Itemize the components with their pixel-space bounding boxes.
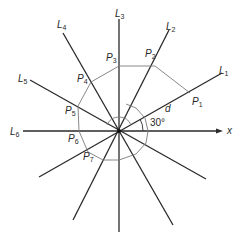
label-l1: L1: [219, 65, 229, 77]
center-point: [117, 129, 121, 133]
label-d: d: [165, 103, 171, 114]
label-p7: P7: [83, 151, 94, 163]
label-angle-30: 30°: [150, 117, 165, 128]
label-p2: P2: [145, 48, 156, 60]
radial-lines-diagram: L1 L2 L3 L4 L5 L6 P1 P2 P3 P4 P5 P6 P7 d…: [0, 0, 244, 239]
label-l6: L6: [10, 126, 20, 138]
x-axis-arrow-icon: [216, 129, 223, 134]
label-l4: L4: [57, 19, 67, 31]
label-l2: L2: [166, 21, 176, 33]
label-p6: P6: [68, 133, 79, 145]
angle-arc-30: [140, 119, 143, 131]
label-p5: P5: [65, 105, 76, 117]
line-l1: [39, 73, 222, 177]
label-l5: L5: [18, 73, 28, 85]
label-p1: P1: [192, 96, 203, 108]
label-l3: L3: [115, 8, 125, 20]
label-p3: P3: [106, 52, 117, 64]
radial-lines: [23, 19, 222, 232]
label-x-axis: x: [226, 125, 233, 136]
label-p4: P4: [77, 73, 88, 85]
